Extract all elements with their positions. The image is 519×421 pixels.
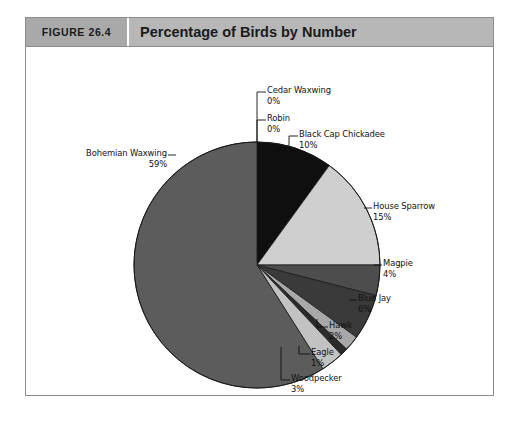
pie-label-cedar-waxwing-name: Cedar Waxwing: [267, 85, 331, 96]
pie-label-magpie-name: Magpie: [383, 258, 413, 269]
pie-label-woodpecker-name: Woodpecker: [291, 373, 342, 384]
pie-label-cedar-waxwing: Cedar Waxwing 0%: [267, 85, 331, 107]
pie-label-house-sparrow-name: House Sparrow: [373, 201, 435, 212]
pie-label-magpie-value: 4%: [383, 269, 413, 280]
chart-plot-area: Cedar Waxwing 0% Robin 0% Black Cap Chic…: [26, 47, 493, 395]
pie-label-blue-jay-name: Blue Jay: [358, 293, 391, 304]
leader-line-robin: [257, 120, 266, 142]
pie-label-bohemian-waxwing-name: Bohemian Waxwing: [62, 148, 167, 159]
pie-label-hawk: Hawk 2%: [329, 320, 352, 342]
figure-title-cell: Percentage of Birds by Number: [129, 18, 493, 46]
pie-label-house-sparrow: House Sparrow 15%: [373, 201, 435, 223]
pie-label-hawk-value: 2%: [329, 331, 352, 342]
figure-number-label: FIGURE 26.4: [42, 26, 112, 38]
pie-label-eagle: Eagle 1%: [311, 347, 334, 369]
pie-label-robin: Robin 0%: [267, 113, 290, 135]
pie-label-eagle-value: 1%: [311, 358, 334, 369]
pie-label-black-cap-chickadee: Black Cap Chickadee 10%: [299, 129, 385, 151]
pie-label-robin-value: 0%: [267, 124, 290, 135]
pie-label-blue-jay-value: 6%: [358, 304, 391, 315]
pie-label-cedar-waxwing-value: 0%: [267, 96, 331, 107]
pie-label-black-cap-chickadee-value: 10%: [299, 140, 385, 151]
figure-number-cell: FIGURE 26.4: [26, 18, 129, 46]
pie-label-house-sparrow-value: 15%: [373, 212, 435, 223]
pie-label-woodpecker-value: 3%: [291, 384, 342, 395]
pie-label-robin-name: Robin: [267, 113, 290, 124]
figure-header: FIGURE 26.4 Percentage of Birds by Numbe…: [26, 18, 493, 47]
figure-title: Percentage of Birds by Number: [140, 24, 357, 40]
pie-slice-group: [134, 142, 380, 388]
pie-label-eagle-name: Eagle: [311, 347, 334, 358]
pie-label-magpie: Magpie 4%: [383, 258, 413, 280]
leader-line-cedar-waxwing: [257, 92, 266, 142]
pie-label-hawk-name: Hawk: [329, 320, 352, 331]
pie-label-black-cap-chickadee-name: Black Cap Chickadee: [299, 129, 385, 140]
pie-label-bohemian-waxwing-value: 59%: [62, 159, 167, 170]
pie-label-blue-jay: Blue Jay 6%: [358, 293, 391, 315]
pie-label-bohemian-waxwing: Bohemian Waxwing 59%: [62, 148, 167, 170]
pie-label-woodpecker: Woodpecker 3%: [291, 373, 342, 395]
figure-frame: FIGURE 26.4 Percentage of Birds by Numbe…: [25, 17, 494, 396]
